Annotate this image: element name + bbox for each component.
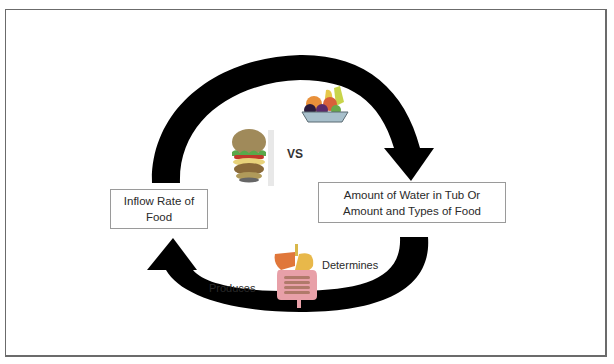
determines-label: Determines bbox=[322, 259, 378, 271]
inflow-rate-node: Inflow Rate of Food bbox=[110, 189, 208, 229]
hamburger-icon bbox=[228, 128, 274, 188]
produces-label: Produces bbox=[209, 282, 255, 294]
stock-amount-node: Amount of Water in Tub Or Amount and Typ… bbox=[318, 182, 506, 223]
vs-label: VS bbox=[287, 147, 303, 161]
digestive-system-icon bbox=[273, 244, 321, 310]
arrowhead-up-icon bbox=[147, 238, 197, 270]
fruit-bowl-icon bbox=[300, 84, 350, 126]
stock-amount-label: Amount of Water in Tub Or Amount and Typ… bbox=[323, 187, 501, 219]
arrowhead-down-icon bbox=[384, 148, 434, 181]
inflow-rate-label: Inflow Rate of Food bbox=[117, 193, 201, 225]
top-arc-arrow bbox=[152, 55, 434, 183]
